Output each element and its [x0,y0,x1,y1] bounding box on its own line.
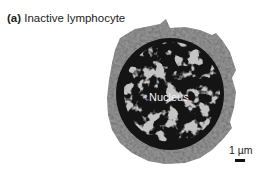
scale-bar [235,159,245,162]
nucleus-label: Nucleus [149,91,189,103]
scale-bar-label: 1 µm [229,144,253,156]
panel-label: (a) [7,12,21,24]
